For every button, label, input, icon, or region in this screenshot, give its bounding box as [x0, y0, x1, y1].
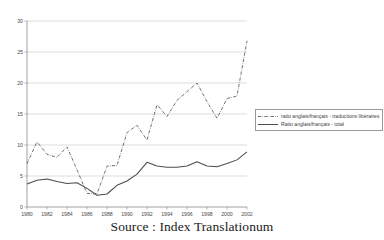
- svg-text:0: 0: [20, 204, 23, 210]
- svg-text:1982: 1982: [41, 211, 53, 217]
- svg-text:25: 25: [17, 49, 23, 55]
- svg-text:1986: 1986: [81, 211, 93, 217]
- svg-text:1992: 1992: [141, 211, 153, 217]
- chart-screenshot: 051015202530 198019821984198619881990199…: [0, 0, 384, 240]
- svg-text:10: 10: [17, 142, 23, 148]
- legend-item-literary: ratio anglais/français - traductions lit…: [258, 112, 379, 120]
- svg-text:2002: 2002: [241, 211, 253, 217]
- svg-text:1994: 1994: [161, 211, 173, 217]
- chart-legend: ratio anglais/français - traductions lit…: [255, 109, 383, 131]
- legend-label-total: Ratio anglais/français - total: [281, 120, 344, 128]
- svg-text:1998: 1998: [201, 211, 213, 217]
- svg-text:15: 15: [17, 111, 23, 117]
- svg-text:1990: 1990: [121, 211, 133, 217]
- legend-label-literary: ratio anglais/français - traductions lit…: [281, 112, 379, 120]
- legend-swatch-dashed: [258, 113, 278, 120]
- svg-text:1980: 1980: [21, 211, 33, 217]
- svg-text:5: 5: [20, 173, 23, 179]
- legend-item-total: Ratio anglais/français - total: [258, 120, 379, 128]
- x-axis-tick-labels: 1980198219841986198819901992199419961998…: [21, 207, 253, 217]
- legend-swatch-solid: [258, 121, 278, 128]
- gridlines: [27, 21, 247, 176]
- y-axis-tick-labels: 051015202530: [17, 18, 27, 210]
- svg-text:30: 30: [17, 18, 23, 24]
- source-caption: Source : Index Translationum: [0, 219, 384, 235]
- svg-text:1988: 1988: [101, 211, 113, 217]
- svg-text:1984: 1984: [61, 211, 73, 217]
- data-series: [27, 41, 247, 195]
- svg-text:1996: 1996: [181, 211, 193, 217]
- svg-text:2000: 2000: [221, 211, 233, 217]
- svg-text:20: 20: [17, 80, 23, 86]
